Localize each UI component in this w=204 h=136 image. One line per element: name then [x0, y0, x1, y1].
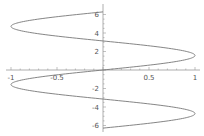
- y-tick-label: 4: [95, 30, 100, 38]
- x-tick-label: 0.5: [143, 74, 154, 82]
- y-tick-label: -6: [92, 122, 100, 130]
- y-tick-label: -2: [92, 85, 99, 93]
- y-tick-label: -4: [92, 104, 100, 112]
- parametric-plot: -1-0.50.51642-2-4-6: [0, 0, 204, 136]
- x-tick-label: -1: [8, 74, 15, 82]
- x-tick-label: 1: [193, 74, 197, 82]
- y-tick-label: 2: [95, 48, 99, 56]
